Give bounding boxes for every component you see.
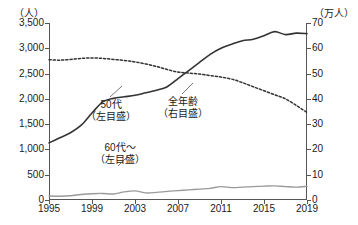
right-tick-mark: [307, 149, 311, 150]
left-tick-label: 500: [27, 170, 44, 180]
left-tick-label: 1,500: [19, 119, 44, 129]
annotation-sixties-name: 60代〜: [95, 142, 145, 154]
series-line: [49, 186, 307, 196]
annotation-sixties: 60代〜 （左目盛）: [95, 142, 145, 166]
cropped-title-fragment: [0, 0, 358, 7]
x-tick-mark: [307, 200, 308, 204]
right-tick-label: 40: [312, 94, 323, 104]
left-tick-label: 3,000: [19, 43, 44, 53]
annotation-all-ages-scale: （右目盛）: [158, 108, 208, 120]
x-tick-label: 2007: [167, 204, 189, 214]
x-tick-label: 2011: [210, 204, 232, 214]
x-tick-label: 1995: [38, 204, 60, 214]
x-tick-mark: [49, 200, 50, 204]
right-tick-mark: [307, 74, 311, 75]
x-tick-mark: [221, 200, 222, 204]
right-tick-label: 10: [312, 170, 323, 180]
right-tick-mark: [307, 48, 311, 49]
right-tick-mark: [307, 99, 311, 100]
x-tick-label: 2015: [253, 204, 275, 214]
chart-figure: （人） （万人） 05001,0001,5002,0002,5003,0003,…: [0, 0, 358, 225]
annotation-fifties: 50代 （左目盛）: [86, 99, 136, 123]
x-tick-mark: [135, 200, 136, 204]
left-tick-label: 1,000: [19, 144, 44, 154]
x-tick-label: 2019: [296, 204, 318, 214]
x-tick-label: 2003: [124, 204, 146, 214]
right-tick-label: 60: [312, 43, 323, 53]
right-tick-label: 50: [312, 69, 323, 79]
annotation-all-ages-name: 全年齢: [158, 96, 208, 108]
x-tick-mark: [178, 200, 179, 204]
right-tick-label: 30: [312, 119, 323, 129]
right-tick-mark: [307, 23, 311, 24]
right-tick-label: 20: [312, 144, 323, 154]
right-tick-mark: [307, 124, 311, 125]
left-tick-label: 3,500: [19, 18, 44, 28]
right-tick-label: 70: [312, 18, 323, 28]
annotation-fifties-scale: （左目盛）: [86, 111, 136, 123]
right-tick-mark: [307, 175, 311, 176]
x-tick-mark: [92, 200, 93, 204]
x-tick-label: 1999: [81, 204, 103, 214]
x-tick-mark: [264, 200, 265, 204]
annotation-all-ages: 全年齢 （右目盛）: [158, 96, 208, 120]
annotation-sixties-scale: （左目盛）: [95, 154, 145, 166]
left-tick-label: 2,500: [19, 69, 44, 79]
series-line: [49, 32, 307, 143]
left-tick-label: 2,000: [19, 94, 44, 104]
annotation-fifties-name: 50代: [86, 99, 136, 111]
